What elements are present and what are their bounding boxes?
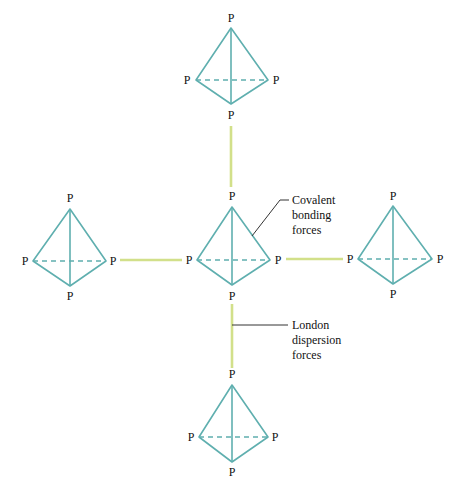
london-annotation: London dispersion forces [232, 318, 341, 362]
atom-label: P [229, 189, 236, 203]
atom-label: P [437, 252, 444, 266]
annotation-text: forces [292, 223, 322, 237]
tetrahedron-top: P P P P [184, 11, 280, 122]
atom-label: P [228, 11, 235, 25]
tetrahedron-right: P P P P [347, 189, 444, 301]
tetrahedron-bottom: P P P P [188, 367, 279, 479]
annotation-text: bonding [292, 208, 331, 222]
atom-label: P [110, 254, 117, 268]
atom-label: P [184, 73, 191, 87]
atom-label: P [390, 287, 397, 301]
atom-label: P [229, 367, 236, 381]
atom-label: P [67, 289, 74, 303]
atom-label: P [229, 465, 236, 479]
atom-label: P [67, 191, 74, 205]
atom-label: P [273, 73, 280, 87]
annotation-text: Covalent [292, 193, 336, 207]
annotation-text: forces [292, 348, 322, 362]
tetrahedron-left: P P P P [22, 191, 117, 303]
tetrahedron-center: P P P P [186, 189, 282, 303]
annotation-text: dispersion [292, 333, 341, 347]
leader-line [252, 200, 289, 236]
atom-label: P [228, 108, 235, 122]
atom-label: P [188, 430, 195, 444]
atom-label: P [272, 430, 279, 444]
covalent-annotation: Covalent bonding forces [252, 193, 336, 237]
atom-label: P [275, 253, 282, 267]
atom-label: P [22, 254, 29, 268]
phosphorus-diagram: P P P P P P P P P P P P P P P P P [0, 0, 459, 501]
atom-label: P [186, 253, 193, 267]
atom-label: P [229, 289, 236, 303]
atom-label: P [390, 189, 397, 203]
annotation-text: London [292, 318, 329, 332]
atom-label: P [347, 252, 354, 266]
